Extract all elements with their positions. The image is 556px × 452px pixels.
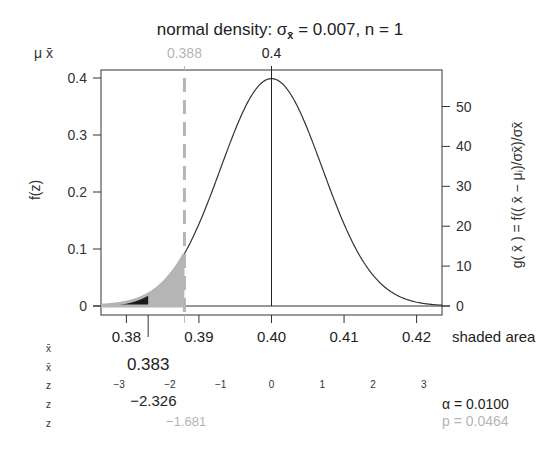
left-axis-label: f(z) bbox=[27, 180, 43, 200]
z-tick-label: −2 bbox=[164, 379, 176, 390]
top-xbar-label: 0.388 bbox=[167, 45, 202, 61]
x-axis-tick-label: 0.42 bbox=[402, 328, 431, 345]
z-tick-label: 3 bbox=[421, 379, 427, 390]
p-value-label: p = 0.0464 bbox=[442, 413, 509, 429]
left-axis-tick-label: 0.2 bbox=[68, 184, 88, 200]
x-axis-tick-label: 0.41 bbox=[329, 328, 358, 345]
right-axis-tick-label: 10 bbox=[456, 258, 472, 274]
left-axis-tick-label: 0 bbox=[79, 298, 87, 314]
x-axis-tick-label: 0.40 bbox=[257, 328, 286, 345]
row-label-xbar-1: x̄ bbox=[46, 343, 51, 354]
z-tick-label: 2 bbox=[370, 379, 376, 390]
row-label-z-1: z bbox=[46, 380, 51, 391]
x-axis-tick-label: 0.38 bbox=[112, 328, 141, 345]
right-axis-tick-label: 20 bbox=[456, 218, 472, 234]
z-tick-label: −3 bbox=[113, 379, 125, 390]
top-row-label: μ x̄ bbox=[34, 45, 53, 61]
left-axis-tick-label: 0.1 bbox=[68, 241, 88, 257]
left-axis-tick-label: 0.4 bbox=[68, 70, 88, 86]
right-axis-tick-label: 50 bbox=[456, 99, 472, 115]
chart-title: normal density: σx̄ = 0.007, n = 1 bbox=[157, 20, 403, 41]
left-axis-tick-label: 0.3 bbox=[68, 127, 88, 143]
x-axis-tick-label: 0.39 bbox=[184, 328, 213, 345]
z-tick-label: 0 bbox=[269, 379, 275, 390]
critical-z-label: −2.326 bbox=[130, 392, 176, 409]
right-axis-tick-label: 40 bbox=[456, 138, 472, 154]
observed-z-label: −1.681 bbox=[166, 414, 206, 429]
right-axis-tick-label: 0 bbox=[456, 298, 464, 314]
z-tick-label: 1 bbox=[320, 379, 326, 390]
shaded-area-label: shaded area bbox=[452, 328, 536, 345]
z-tick-label: −1 bbox=[215, 379, 227, 390]
right-axis-tick-label: 30 bbox=[456, 178, 472, 194]
title-prefix: normal density: σ bbox=[157, 20, 288, 39]
right-axis-label: g( x̄ ) = f(( x̄ − μᵢ)/σx̄)/σx̄ bbox=[509, 122, 525, 269]
row-label-z-2: z bbox=[46, 399, 51, 410]
top-mu-label: 0.4 bbox=[262, 45, 282, 61]
chart: normal density: σx̄ = 0.007, n = 1 μ x̄ … bbox=[0, 0, 556, 452]
critical-xbar-label: 0.383 bbox=[127, 355, 170, 374]
row-label-z-3: z bbox=[46, 418, 51, 429]
alpha-label: α = 0.0100 bbox=[442, 396, 509, 412]
row-label-xbar-2: x̄ bbox=[46, 362, 51, 373]
title-suffix: = 0.007, n = 1 bbox=[293, 20, 403, 39]
